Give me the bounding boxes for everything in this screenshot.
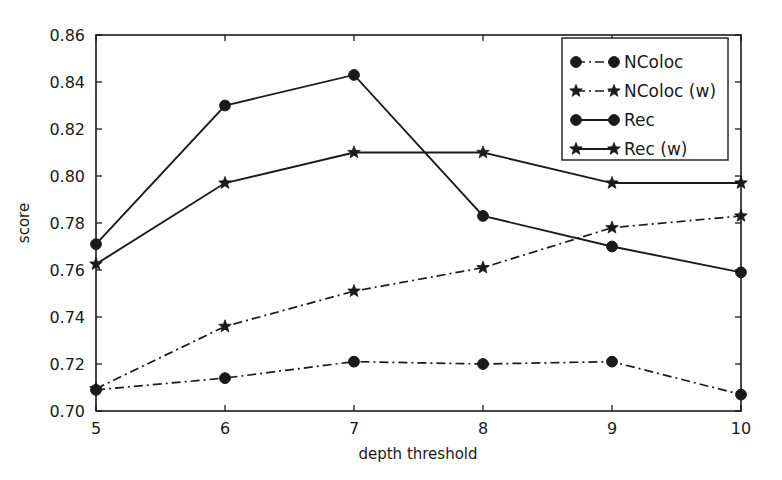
data-point-marker <box>736 389 747 400</box>
legend-label: NColoc <box>624 52 683 72</box>
data-point-marker <box>349 70 360 81</box>
x-axis-tick-labels: 5678910 <box>91 419 751 438</box>
y-tick-label: 0.86 <box>49 26 85 45</box>
x-axis-title: depth threshold <box>358 445 477 463</box>
x-tick-label: 6 <box>220 419 230 438</box>
data-point-marker <box>219 320 232 332</box>
y-tick-label: 0.84 <box>49 73 85 92</box>
data-point-marker <box>220 373 231 384</box>
x-tick-label: 10 <box>731 419 751 438</box>
y-tick-label: 0.74 <box>49 308 85 327</box>
data-point-marker <box>220 100 231 111</box>
data-point-marker <box>606 176 619 188</box>
legend-marker <box>609 115 620 126</box>
x-tick-label: 5 <box>91 419 101 438</box>
legend-label: Rec (w) <box>624 139 687 159</box>
x-tick-label: 7 <box>349 419 359 438</box>
data-point-marker <box>607 241 618 252</box>
legend-marker <box>609 57 620 68</box>
y-tick-label: 0.70 <box>49 402 85 421</box>
data-point-marker <box>91 239 102 250</box>
y-axis-tick-labels: 0.700.720.740.760.780.800.820.840.86 <box>49 26 85 421</box>
legend-label: NColoc (w) <box>624 81 716 101</box>
series-ncoloc <box>91 356 747 400</box>
data-point-marker <box>478 211 489 222</box>
x-tick-label: 8 <box>478 419 488 438</box>
legend-label: Rec <box>624 110 655 130</box>
data-point-marker <box>349 356 360 367</box>
legend-marker <box>571 57 582 68</box>
y-tick-label: 0.72 <box>49 355 85 374</box>
series-rec-w <box>90 146 748 270</box>
data-point-marker <box>606 221 619 233</box>
legend: NColocNColoc (w)RecRec (w) <box>562 38 728 160</box>
x-tick-label: 9 <box>607 419 617 438</box>
line-chart: 5678910 0.700.720.740.760.780.800.820.84… <box>0 0 782 480</box>
data-point-marker <box>348 285 361 297</box>
series-line <box>96 153 741 265</box>
series-ncoloc-w <box>90 209 748 394</box>
series-line <box>96 362 741 395</box>
y-tick-label: 0.78 <box>49 214 85 233</box>
y-axis-title: score <box>15 203 33 243</box>
data-point-marker <box>607 356 618 367</box>
chart-figure: 5678910 0.700.720.740.760.780.800.820.84… <box>0 0 782 480</box>
data-point-marker <box>736 267 747 278</box>
legend-marker <box>571 115 582 126</box>
data-point-marker <box>477 261 490 273</box>
data-point-marker <box>477 146 490 158</box>
y-tick-label: 0.76 <box>49 261 85 280</box>
y-tick-label: 0.80 <box>49 167 85 186</box>
y-tick-label: 0.82 <box>49 120 85 139</box>
data-point-marker <box>478 359 489 370</box>
data-point-marker <box>348 146 361 158</box>
